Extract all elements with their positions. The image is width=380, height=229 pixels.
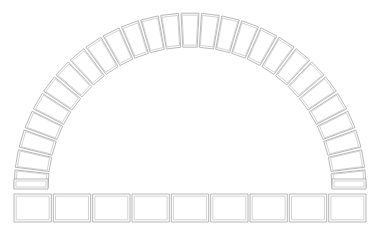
base-layer: [14, 194, 366, 222]
drawing-canvas: [0, 0, 380, 229]
springer-block-right: [332, 179, 366, 189]
base-block-2: [53, 194, 90, 222]
voussoir-inner-outline: [162, 15, 180, 46]
base-block-inner-outline: [16, 196, 49, 220]
voussoir-inner-outline: [182, 15, 198, 45]
voussoir: [199, 13, 219, 49]
base-block-inner-outline: [331, 196, 364, 220]
base-block-1: [14, 194, 51, 222]
base-block-5: [171, 194, 208, 222]
springer-block-left: [14, 179, 48, 189]
base-block-inner-outline: [95, 196, 128, 220]
base-block-inner-outline: [213, 196, 246, 220]
base-block-4: [132, 194, 169, 222]
base-block-8: [289, 194, 326, 222]
base-block-inner-outline: [56, 196, 89, 220]
springer-inner-outline-right: [334, 181, 364, 187]
base-block-9: [329, 194, 366, 222]
base-block-inner-outline: [174, 196, 207, 220]
base-block-inner-outline: [292, 196, 325, 220]
springer-layer: [14, 179, 366, 189]
voussoir-inner-outline: [200, 15, 218, 46]
arch-drawing: [0, 0, 380, 229]
base-block-3: [93, 194, 130, 222]
base-block-inner-outline: [134, 196, 167, 220]
voussoir-inner-outline: [17, 151, 49, 170]
springer-inner-outline-left: [16, 181, 46, 187]
voussoir-inner-outline: [331, 151, 363, 170]
voussoir: [161, 13, 181, 49]
base-block-inner-outline: [252, 196, 285, 220]
voussoir-keystone: [181, 13, 199, 47]
base-block-6: [211, 194, 248, 222]
base-block-7: [250, 194, 287, 222]
voussoir-layer: [14, 13, 366, 188]
